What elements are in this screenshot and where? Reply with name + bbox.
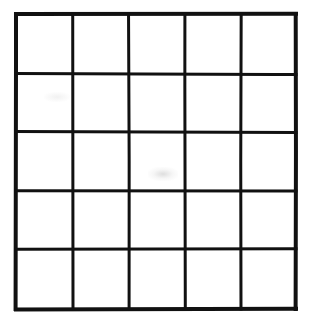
grid-cell[interactable] xyxy=(185,14,241,74)
grid-cell[interactable] xyxy=(73,14,129,74)
grid-line-vertical xyxy=(129,14,130,309)
grid-cell[interactable] xyxy=(16,14,73,74)
grid-cell[interactable] xyxy=(16,74,73,132)
grid-cell[interactable] xyxy=(241,191,296,249)
grid-cell[interactable] xyxy=(129,249,185,309)
grid-cell[interactable] xyxy=(241,14,296,74)
grid-cell[interactable] xyxy=(73,249,129,309)
grid-cell[interactable] xyxy=(129,191,185,249)
grid-cell[interactable] xyxy=(241,249,296,309)
grid-cell[interactable] xyxy=(241,74,296,132)
grid-cell-layer xyxy=(16,14,296,309)
grid-line-horizontal xyxy=(16,249,296,250)
grid-cell[interactable] xyxy=(185,191,241,249)
grid-figure xyxy=(0,0,313,325)
grid-cell[interactable] xyxy=(73,191,129,249)
grid-cell[interactable] xyxy=(129,14,185,74)
grid-cell[interactable] xyxy=(16,191,73,249)
grid-line-horizontal xyxy=(16,132,296,133)
grid-cell[interactable] xyxy=(129,132,185,191)
grid-cell[interactable] xyxy=(73,74,129,132)
grid-border-line-horizontal xyxy=(16,309,296,310)
grid-cell[interactable] xyxy=(185,74,241,132)
page-canvas xyxy=(0,0,313,325)
grid-line-horizontal xyxy=(16,74,296,75)
grid-cell[interactable] xyxy=(73,132,129,191)
grid-cell[interactable] xyxy=(185,249,241,309)
grid-cell[interactable] xyxy=(16,132,73,191)
grid-cell[interactable] xyxy=(16,249,73,309)
grid-cell[interactable] xyxy=(129,74,185,132)
grid-cell[interactable] xyxy=(241,132,296,191)
grid-cell[interactable] xyxy=(185,132,241,191)
